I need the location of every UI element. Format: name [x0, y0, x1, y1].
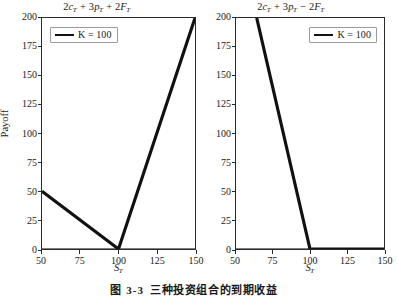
y-tick-mark: [232, 220, 236, 221]
y-tick-label: 100: [193, 129, 231, 139]
y-tick-label: 0: [193, 245, 231, 255]
y-tick-mark: [232, 46, 236, 47]
x-tick-label: 150: [176, 256, 216, 266]
legend-label-right: K = 100: [337, 30, 371, 40]
y-tick-label: 0: [0, 245, 37, 255]
title-c-subscript: T: [267, 6, 271, 14]
x-tick-mark: [157, 250, 158, 254]
xlabel-subscript: T: [119, 267, 123, 275]
x-tick-mark: [79, 250, 80, 254]
y-tick-label: 200: [0, 12, 37, 22]
y-tick-mark: [232, 75, 236, 76]
y-tick-mark: [38, 17, 42, 18]
x-tick-label: 150: [365, 256, 397, 266]
caption-text-wrapper: 图 3-3三种投资组合的到期收益: [110, 281, 277, 297]
y-tick-label: 125: [0, 99, 37, 109]
y-tick-label: 25: [193, 216, 231, 226]
x-tick-label: 100: [99, 256, 139, 266]
title-f-subscript: T: [320, 6, 324, 14]
y-tick-mark: [38, 191, 42, 192]
title-c-subscript: T: [73, 6, 77, 14]
legend-label-left: K = 100: [78, 30, 112, 40]
title-operator-1: +: [271, 1, 283, 12]
x-tick-mark: [385, 250, 386, 254]
legend-line-swatch-icon: [314, 34, 333, 37]
x-tick-mark: [310, 250, 311, 254]
legend-left: K = 100: [50, 27, 118, 43]
x-tick-mark: [41, 250, 42, 254]
x-tick-mark: [118, 250, 119, 254]
y-tick-mark: [232, 17, 236, 18]
x-tick-label: 75: [60, 256, 100, 266]
y-tick-label: 150: [193, 70, 231, 80]
x-tick-label: 75: [253, 256, 293, 266]
x-tick-mark: [347, 250, 348, 254]
title-operator-2: −: [297, 1, 309, 12]
y-tick-mark: [232, 104, 236, 105]
legend-line-swatch-icon: [55, 34, 74, 37]
y-tick-label: 50: [0, 187, 37, 197]
y-tick-mark: [232, 191, 236, 192]
y-tick-mark: [38, 46, 42, 47]
figure-caption: 图 3-3三种投资组合的到期收益: [0, 281, 388, 297]
legend-right: K = 100: [309, 27, 377, 43]
x-tick-label: 50: [21, 256, 61, 266]
y-tick-mark: [38, 162, 42, 163]
x-tick-label: 125: [328, 256, 368, 266]
plot-area-left: K = 100: [41, 17, 196, 250]
plot-lines-right: [236, 18, 384, 249]
y-tick-mark: [38, 133, 42, 134]
y-tick-label: 175: [0, 41, 37, 51]
plot-area-right: K = 100: [235, 17, 385, 250]
title-operator-1: +: [77, 1, 89, 12]
xlabel-subscript: T: [310, 267, 314, 275]
y-tick-label: 50: [193, 187, 231, 197]
y-tick-label: 75: [0, 158, 37, 168]
y-tick-label: 125: [193, 99, 231, 109]
plot-lines-left: [42, 18, 195, 249]
y-tick-mark: [38, 250, 42, 251]
y-tick-label: 75: [193, 158, 231, 168]
x-tick-label: 100: [290, 256, 330, 266]
x-tick-label: 125: [137, 256, 177, 266]
title-p-subscript: T: [99, 6, 103, 14]
y-tick-label: 150: [0, 70, 37, 80]
x-tick-mark: [272, 250, 273, 254]
title-f-subscript: T: [126, 6, 130, 14]
caption-number: 图 3-3: [110, 284, 143, 296]
y-tick-mark: [232, 133, 236, 134]
title-p-subscript: T: [293, 6, 297, 14]
payoff-line-right: [257, 18, 384, 249]
y-tick-mark: [38, 75, 42, 76]
y-tick-mark: [232, 162, 236, 163]
y-tick-label: 100: [0, 129, 37, 139]
y-tick-mark: [232, 250, 236, 251]
y-tick-label: 175: [193, 41, 231, 51]
payoff-line-left: [42, 18, 195, 249]
title-operator-2: +: [103, 1, 115, 12]
y-tick-label: 25: [0, 216, 37, 226]
x-tick-mark: [235, 250, 236, 254]
y-tick-mark: [38, 220, 42, 221]
y-tick-mark: [38, 104, 42, 105]
y-tick-label: 200: [193, 12, 231, 22]
caption-body: 三种投资组合的到期收益: [150, 284, 278, 296]
x-tick-label: 50: [215, 256, 255, 266]
